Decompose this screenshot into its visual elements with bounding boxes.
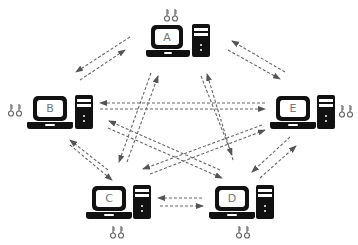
edge-c-to-e	[150, 130, 265, 174]
edge-e-to-c	[143, 125, 262, 169]
node-label: C	[96, 190, 122, 207]
edge-a-to-d	[201, 76, 232, 155]
edge-e-to-d	[252, 137, 290, 172]
desktop-tower-icon	[192, 24, 210, 57]
laptop-base	[86, 212, 132, 219]
laptop-base	[27, 122, 73, 129]
keys-icon	[109, 225, 127, 239]
laptop-screen: E	[276, 96, 310, 121]
laptop-screen: B	[33, 96, 67, 121]
laptop-base	[146, 50, 190, 57]
edge-d-to-b	[109, 121, 220, 170]
edge-c-to-a	[127, 76, 158, 162]
laptop-base	[270, 122, 316, 129]
node-label: E	[280, 100, 306, 117]
laptop-base	[209, 212, 255, 219]
computer-node-e: E	[268, 92, 358, 134]
desktop-tower-icon	[133, 185, 151, 219]
laptop-screen: D	[215, 186, 249, 211]
keys-icon	[235, 225, 253, 239]
laptop-screen: C	[92, 186, 126, 211]
node-label: B	[37, 100, 63, 117]
computer-node-d: D	[208, 182, 280, 242]
edge-a-to-c	[119, 73, 151, 162]
computer-node-c: C	[85, 182, 157, 242]
node-label: D	[219, 190, 245, 207]
edge-b-to-d	[108, 128, 222, 178]
keys-icon	[338, 104, 356, 118]
desktop-tower-icon	[317, 95, 335, 129]
edge-c-to-b	[70, 140, 108, 170]
laptop-screen: A	[151, 25, 183, 49]
edge-b-to-c	[70, 145, 112, 180]
edge-d-to-e	[260, 146, 296, 178]
computer-node-a: A	[145, 8, 215, 60]
network-diagram: A B E	[0, 0, 358, 245]
node-label: A	[155, 29, 179, 45]
desktop-tower-icon	[75, 95, 93, 129]
edge-a-to-b	[76, 37, 130, 72]
keys-icon	[163, 8, 181, 22]
desktop-tower-icon	[256, 185, 274, 219]
keys-icon	[7, 103, 25, 117]
computer-node-b: B	[5, 92, 95, 134]
